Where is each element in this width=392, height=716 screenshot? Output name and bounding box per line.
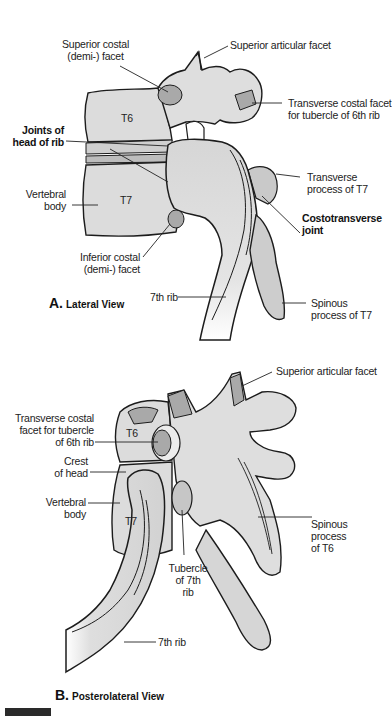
- label-seventh-rib-a: 7th rib: [150, 291, 178, 303]
- caption-letter: B.: [55, 687, 69, 703]
- label-line: of T6: [311, 542, 348, 554]
- label-t7-a: T7: [120, 194, 132, 206]
- label-line: Costotransverse: [302, 212, 382, 224]
- label-tubercle-7th-rib: Tubercle of 7th rib: [168, 562, 208, 598]
- label-line: Spinous: [311, 518, 348, 530]
- label-vertebral-body-b: Vertebral body: [30, 496, 86, 520]
- caption-text: Posterolateral View: [72, 691, 164, 702]
- t6-posterior-elements: [158, 52, 262, 128]
- label-t6-a: T6: [121, 112, 133, 124]
- label-line: Superior costal: [62, 38, 129, 50]
- label-transverse-process-t7: Transverse process of T7: [307, 171, 368, 195]
- label-line: Transverse costal: [6, 412, 94, 424]
- label-line: Vertebral: [30, 496, 86, 508]
- label-line: for tubercle of 6th rib: [288, 109, 392, 121]
- figure-b-posterolateral-view: Superior articular facet Transverse cost…: [0, 350, 390, 716]
- label-t7-b: T7: [125, 515, 137, 527]
- caption-letter: A.: [49, 295, 63, 311]
- label-transverse-costal-facet-a: Transverse costal facet for tubercle of …: [288, 97, 392, 121]
- label-line: process: [311, 530, 348, 542]
- label-joints-head-of-rib: Joints of head of rib: [10, 124, 64, 148]
- label-line: Inferior costal: [80, 251, 140, 263]
- label-superior-costal-facet-a: Superior costal (demi-) facet: [62, 38, 129, 62]
- label-line: (demi-) facet: [80, 263, 140, 275]
- figure-a-lateral-view: Superior costal (demi-) facet Superior a…: [0, 0, 390, 350]
- label-line: rib: [168, 586, 208, 598]
- label-line: Transverse costal facet: [288, 97, 392, 109]
- tubercle-7th-rib: [172, 481, 192, 515]
- label-line: Spinous: [311, 297, 372, 309]
- label-line: of 7th: [168, 574, 208, 586]
- label-line: process of T7: [307, 183, 368, 195]
- label-transverse-costal-facet-b: Transverse costal facet for tubercle of …: [6, 412, 94, 448]
- label-line: Tubercle: [168, 562, 208, 574]
- label-crest-of-head: Crest of head: [30, 455, 88, 479]
- label-spinous-process-t6: Spinous process of T6: [311, 518, 348, 554]
- caption-figure-b: B.Posterolateral View: [55, 687, 164, 703]
- label-seventh-rib-b: 7th rib: [158, 636, 186, 648]
- label-inferior-costal-facet: Inferior costal (demi-) facet: [80, 251, 140, 275]
- label-line: head of rib: [10, 136, 64, 148]
- caption-text: Lateral View: [66, 299, 124, 310]
- label-line: body: [30, 508, 86, 520]
- seventh-rib-lateral: [166, 139, 258, 340]
- label-vertebral-body-a: Vertebral body: [10, 188, 66, 212]
- label-line: body: [10, 200, 66, 212]
- label-line: of 6th rib: [6, 436, 94, 448]
- label-costotransverse-joint: Costotransverse joint: [302, 212, 382, 236]
- label-line: facet for tubercle: [6, 424, 94, 436]
- label-line: joint: [302, 224, 382, 236]
- label-line: (demi-) facet: [62, 50, 129, 62]
- label-line: of head: [30, 467, 88, 479]
- spinous-process-t7: [250, 215, 284, 320]
- label-superior-articular-facet-b: Superior articular facet: [276, 365, 377, 377]
- label-line: Transverse: [307, 171, 368, 183]
- label-spinous-process-t7: Spinous process of T7: [311, 297, 372, 321]
- label-line: Vertebral: [10, 188, 66, 200]
- t6-posterior-elements-b: [152, 372, 296, 575]
- label-line: Crest: [30, 455, 88, 467]
- label-line: Joints of: [10, 124, 64, 136]
- figure-tab-marker: [5, 708, 51, 716]
- label-t6-b: T6: [126, 427, 138, 439]
- caption-figure-a: A.Lateral View: [49, 295, 124, 311]
- label-superior-articular-facet-a: Superior articular facet: [230, 39, 331, 51]
- label-line: process of T7: [311, 309, 372, 321]
